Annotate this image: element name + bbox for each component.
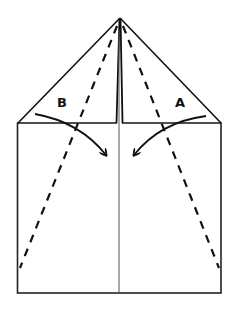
triangle-right-edge xyxy=(120,18,221,123)
arrow-a-icon xyxy=(134,116,206,155)
right-dashed-fold-line xyxy=(123,26,219,268)
flap-label-a: A xyxy=(175,95,185,110)
folding-diagram: B A xyxy=(0,0,236,312)
right-flap-inner-edge xyxy=(121,18,123,123)
left-dashed-fold-line xyxy=(20,26,117,268)
triangle-left-edge xyxy=(18,18,120,123)
flap-label-b: B xyxy=(57,95,67,110)
arrow-b-icon xyxy=(35,114,106,155)
